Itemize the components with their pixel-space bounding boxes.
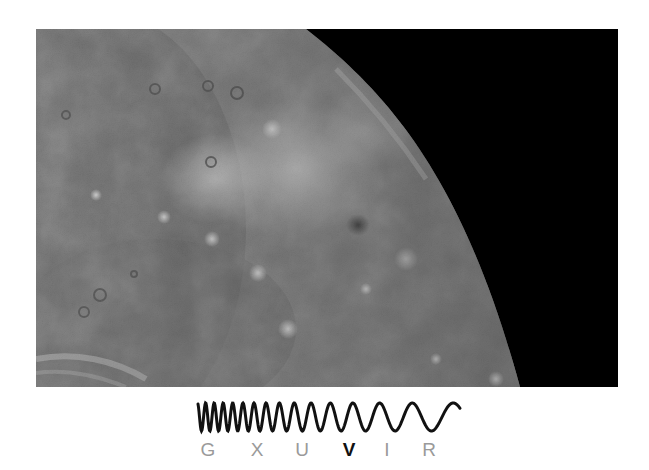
band-label-ultraviolet: U <box>295 439 309 461</box>
planet-surface-photo <box>36 29 618 387</box>
band-label-infrared: I <box>384 439 389 461</box>
band-label-radio: R <box>422 439 436 461</box>
wavelength-spectrum-indicator: G X U V I R <box>190 395 470 467</box>
planet-surface-image <box>36 29 618 387</box>
band-label-visible: V <box>343 439 356 461</box>
band-label-xray: X <box>251 439 264 461</box>
wavelength-wave-icon <box>190 395 470 439</box>
band-label-gamma: G <box>201 439 216 461</box>
